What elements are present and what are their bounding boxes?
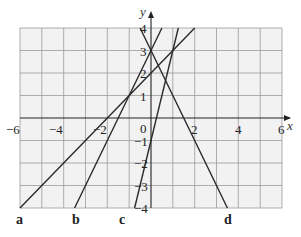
- x-tick-label: 6: [278, 122, 285, 137]
- x-tick-label: −6: [6, 122, 20, 137]
- x-tick-label: 2: [191, 122, 198, 137]
- y-tick-label: 4: [140, 21, 147, 36]
- y-tick-label: −4: [134, 201, 148, 216]
- y-axis-arrow-icon: [148, 11, 154, 18]
- y-tick-label: 1: [140, 89, 147, 104]
- x-tick-label: 4: [235, 122, 242, 137]
- y-axis-label: y: [138, 4, 146, 19]
- x-axis-label: x: [286, 118, 293, 133]
- x-tick-label: −2: [93, 122, 107, 137]
- y-tick-label: −2: [134, 156, 148, 171]
- y-tick-label: −3: [134, 179, 148, 194]
- y-tick-label: 2: [140, 66, 147, 81]
- line-label-b: b: [72, 212, 80, 227]
- x-tick-label: −4: [49, 122, 63, 137]
- y-tick-label: −1: [134, 134, 148, 149]
- line-label-c: c: [119, 212, 125, 227]
- y-tick-label: 3: [140, 44, 147, 59]
- line-label-d: d: [224, 212, 232, 227]
- line-label-a: a: [16, 212, 23, 227]
- coordinate-plot: −6 −4 −2 0 2 4 6 4 3 2 1 −1 −2 −3 −4 x y…: [0, 0, 301, 237]
